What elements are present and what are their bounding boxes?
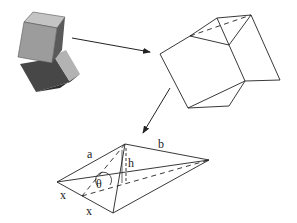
shaded-cubes-illustration (18, 12, 80, 92)
bipyramid-wireframe (57, 144, 209, 213)
label-h: h (128, 156, 134, 170)
crystal-diagram: a b h θ x x (0, 0, 297, 223)
arrow-to-rhombohedron (72, 38, 150, 52)
upper-cube-front-face (18, 22, 57, 63)
arrow-to-bipyramid (143, 88, 170, 133)
label-b: b (158, 137, 164, 151)
rhombohedron-wireframe (160, 15, 280, 108)
label-x-left: x (60, 188, 66, 202)
label-theta: θ (96, 177, 102, 191)
label-x-bottom: x (86, 204, 92, 218)
label-a: a (87, 147, 93, 161)
